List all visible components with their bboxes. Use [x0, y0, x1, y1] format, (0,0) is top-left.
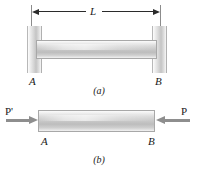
node-label-b-right: B: [148, 136, 155, 147]
bar-panel-a: [36, 40, 157, 59]
caption-panel-a: (a): [0, 86, 198, 96]
node-label-b-left: A: [41, 136, 48, 147]
caption-panel-b: (b): [0, 155, 198, 165]
dimension-arrow-left-icon: [32, 9, 39, 15]
extension-line-right: [160, 5, 161, 27]
load-arrow-right-shaft: [165, 119, 190, 122]
force-label-p-prime: P': [5, 106, 13, 117]
dimension-label-L: L: [90, 6, 96, 17]
dimension-arrow-right-icon: [153, 9, 160, 15]
bar-sheen-a: [37, 44, 156, 50]
bar-sheen-b: [39, 115, 154, 122]
load-arrow-right-head-icon: [156, 116, 165, 124]
dimension-line-right-segment: [102, 11, 153, 12]
load-arrow-right: [156, 118, 190, 123]
load-arrow-left: [6, 118, 38, 123]
dimension-line-left-segment: [39, 11, 86, 12]
load-arrow-left-shaft: [6, 119, 29, 122]
bar-panel-b: [38, 110, 155, 132]
load-arrow-left-head-icon: [29, 116, 38, 124]
figure-axially-loaded-bar: L A B (a) P' P: [0, 0, 198, 171]
force-label-p: P: [181, 106, 187, 117]
